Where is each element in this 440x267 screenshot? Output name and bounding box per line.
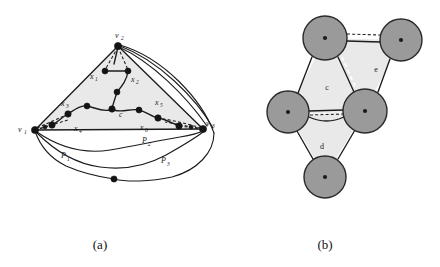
node-x6 bbox=[176, 123, 182, 129]
path-label-p3: P 3 bbox=[160, 156, 170, 167]
path-label-p3-sub: 3 bbox=[166, 161, 170, 167]
node-x3 bbox=[65, 111, 71, 117]
path-label-p1: P 1 bbox=[60, 151, 70, 162]
node-left-branch-1 bbox=[84, 103, 90, 109]
node-base-left-small bbox=[43, 125, 47, 129]
face-label-c: c bbox=[325, 83, 329, 92]
path-label-p2-text: P bbox=[141, 136, 147, 145]
path-label-p2-sub: 2 bbox=[148, 141, 151, 147]
vertex-label-v2-sub: 2 bbox=[121, 35, 124, 41]
vertex-label-v3-text: v bbox=[206, 119, 210, 128]
x-label-5-sub: 5 bbox=[160, 102, 163, 108]
blob-top-left-center-dot bbox=[323, 36, 327, 40]
caption-b: (b) bbox=[317, 237, 332, 252]
vertex-v1-dot bbox=[31, 126, 38, 133]
node-base-right-small bbox=[189, 125, 193, 129]
x-label-1-sub: 1 bbox=[95, 76, 98, 82]
node-mid-chain bbox=[114, 89, 120, 95]
node-x1 bbox=[102, 68, 108, 74]
blob-top-right-center-dot bbox=[399, 38, 403, 42]
figure-root: v 2 v 1 v 3 c x 1 x 2 x 3 x 4 x 5 bbox=[0, 0, 440, 267]
blob-mid-right-center-dot bbox=[363, 109, 367, 113]
x-label-6-sub: 6 bbox=[145, 127, 148, 133]
dashed-topleft-topright bbox=[347, 36, 380, 37]
vertex-label-v2-text: v bbox=[115, 31, 119, 40]
x-label-1-text: x bbox=[89, 72, 94, 81]
node-right-branch-1 bbox=[136, 107, 142, 113]
x-label-2-sub: 2 bbox=[136, 79, 139, 85]
x-label-3-sub: 3 bbox=[65, 103, 69, 109]
face-label-d: d bbox=[320, 142, 324, 151]
blob-bottom-center-dot bbox=[323, 175, 327, 179]
node-x2 bbox=[125, 68, 131, 74]
node-lower-arc bbox=[111, 176, 117, 182]
panel-a: v 2 v 1 v 3 c x 1 x 2 x 3 x 4 x 5 bbox=[18, 31, 215, 252]
vertex-label-v3-sub: 3 bbox=[211, 123, 215, 129]
blob-mid-left-center-dot bbox=[286, 110, 290, 114]
x-label-4-text: x bbox=[73, 124, 78, 133]
face-label-e: e bbox=[374, 65, 378, 74]
path-label-p3-text: P bbox=[160, 156, 166, 165]
x-label-4-sub: 4 bbox=[79, 128, 82, 134]
vertex-label-v2: v 2 bbox=[115, 31, 124, 41]
vertex-v2-dot bbox=[114, 42, 121, 49]
vertex-label-v1-text: v bbox=[18, 125, 22, 134]
vertex-label-v1: v 1 bbox=[18, 125, 27, 135]
x-label-5-text: x bbox=[154, 98, 159, 107]
path-label-p2: P 2 bbox=[141, 136, 151, 147]
x-label-3-text: x bbox=[60, 99, 65, 108]
caption-a: (a) bbox=[93, 237, 107, 252]
path-label-p1-sub: 1 bbox=[67, 156, 70, 162]
vertex-label-v1-sub: 1 bbox=[24, 129, 27, 135]
node-x5 bbox=[155, 115, 161, 121]
node-x4 bbox=[49, 122, 55, 128]
x-label-6-text: x bbox=[139, 123, 144, 132]
dashed-dark-topleft-topright bbox=[347, 34, 380, 35]
node-center-c bbox=[109, 106, 115, 112]
panel-b: c d e (b) bbox=[267, 16, 422, 252]
path-label-p1-text: P bbox=[60, 151, 66, 160]
x-label-2-text: x bbox=[130, 75, 135, 84]
center-label-c: c bbox=[119, 110, 123, 119]
